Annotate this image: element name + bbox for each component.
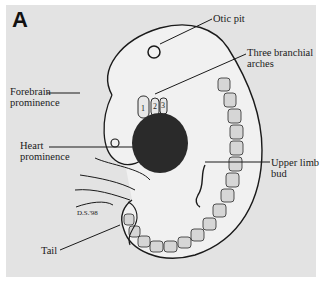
leader-tail <box>60 225 120 250</box>
label-heart-1: Heart <box>20 140 43 151</box>
panel-letter: A <box>12 9 28 31</box>
label-forebrain-2: prominence <box>10 97 60 108</box>
label-heart-2: prominence <box>20 151 70 162</box>
embryo-illustration <box>0 0 322 286</box>
label-otic-pit: Otic pit <box>213 13 245 24</box>
label-branchial-arches-1: Three branchial <box>247 47 313 58</box>
label-tail: Tail <box>41 245 57 256</box>
arch-number-2: 2 <box>153 101 157 112</box>
arch-number-1: 1 <box>141 103 145 114</box>
artist-signature: D.S.'98 <box>77 208 98 219</box>
arch-number-3: 3 <box>161 100 165 111</box>
label-forebrain-1: Forebrain <box>10 86 51 97</box>
label-upper-limb-2: bud <box>271 168 287 179</box>
heart-prominence-shape <box>132 113 188 173</box>
label-branchial-arches-2: arches <box>247 58 274 69</box>
label-upper-limb-1: Upper limb <box>271 157 319 168</box>
